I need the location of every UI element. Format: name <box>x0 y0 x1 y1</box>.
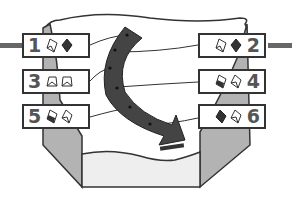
stage-number: 2 <box>247 36 260 55</box>
sheet-top-edge <box>45 14 247 28</box>
trapezoid-open-icon <box>46 74 58 89</box>
stage-4-box: 4 <box>198 69 266 94</box>
stage-number: 5 <box>28 107 41 126</box>
stage-2-box: 2 <box>198 33 266 58</box>
gem-filled-icon <box>230 38 242 53</box>
stage-number: 4 <box>247 72 260 91</box>
gem-outline-icon <box>230 74 242 89</box>
gem-half-filled-icon <box>215 74 227 89</box>
stage-6-box: 6 <box>198 104 266 129</box>
gem-filled-icon <box>215 109 227 124</box>
trapezoid-open-icon <box>61 74 73 89</box>
gem-outline-icon <box>230 109 242 124</box>
stage-number: 6 <box>247 107 260 126</box>
gem-filled-icon <box>61 38 73 53</box>
stage-1-box: 1 <box>22 33 90 58</box>
open-gem-outline-icon <box>215 38 227 53</box>
tray-bottom <box>82 151 200 187</box>
stage-5-box: 5 <box>22 104 90 129</box>
left-connector-bar <box>0 43 24 48</box>
right-connector-bar <box>268 43 292 48</box>
stage-number: 1 <box>28 36 41 55</box>
gem-half-filled-icon <box>46 109 58 124</box>
stage-number: 3 <box>28 72 41 91</box>
gem-outline-icon <box>61 109 73 124</box>
diagram-canvas <box>0 0 292 206</box>
curved-flow-arrow <box>104 27 185 145</box>
open-gem-outline-icon <box>46 38 58 53</box>
stage-3-box: 3 <box>22 69 90 94</box>
